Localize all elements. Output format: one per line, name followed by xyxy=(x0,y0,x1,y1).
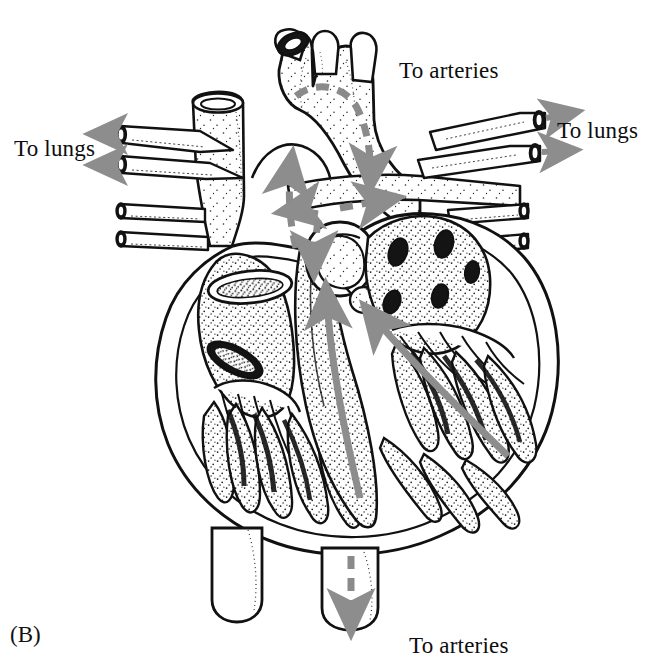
arrow-outflow-down-dashed xyxy=(314,220,318,272)
heart-figure: To lungs To lungs To arteries To arterie… xyxy=(0,0,665,662)
left-common-carotid-branch xyxy=(312,31,338,74)
label-to-lungs-left: To lungs xyxy=(14,137,95,160)
label-to-arteries-bottom: To arteries xyxy=(409,634,509,657)
left-subclavian-branch xyxy=(351,33,377,82)
label-to-lungs-right: To lungs xyxy=(557,119,638,142)
figure-caption: (B) xyxy=(10,622,41,648)
inferior-vena-cava-stub xyxy=(212,528,262,622)
heart-illustration xyxy=(0,0,665,662)
label-to-arteries-top: To arteries xyxy=(399,59,499,82)
arrow-to-lungs-right-lower xyxy=(542,150,574,152)
